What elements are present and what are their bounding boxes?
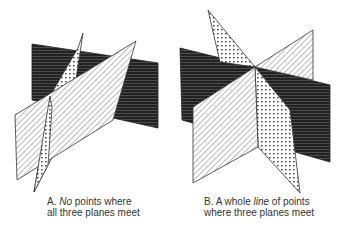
caption-emphasis: No bbox=[59, 196, 72, 207]
panel-b-caption: B. A whole line of points where three pl… bbox=[204, 196, 314, 218]
panel-b bbox=[180, 10, 330, 193]
caption-rest: of points bbox=[269, 196, 310, 207]
caption-prefix: A. bbox=[47, 196, 59, 207]
caption-rest: points where bbox=[72, 196, 131, 207]
panel-a-caption: A. No points where all three planes meet bbox=[47, 196, 140, 218]
panel-a bbox=[15, 33, 158, 192]
panel-b-caption-line1: B. A whole line of points bbox=[204, 196, 314, 207]
caption-emphasis: line bbox=[253, 196, 269, 207]
panel-a-caption-line2: all three planes meet bbox=[47, 207, 140, 218]
caption-prefix: B. A whole bbox=[204, 196, 253, 207]
panel-b-caption-line2: where three planes meet bbox=[204, 207, 314, 218]
panel-a-caption-line1: A. No points where bbox=[47, 196, 140, 207]
